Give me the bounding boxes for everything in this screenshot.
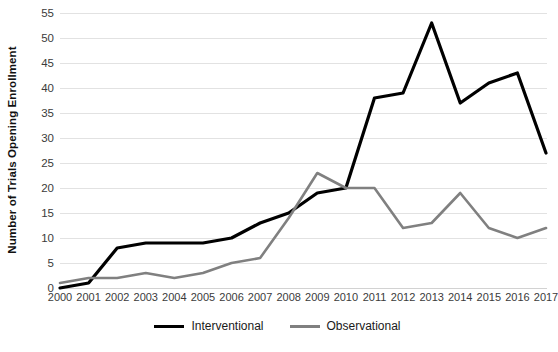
x-tick-label: 2011: [363, 291, 387, 303]
x-tick-label: 2000: [48, 291, 72, 303]
y-tick-label: 30: [41, 132, 54, 144]
y-axis-title-text: Number of Trials Opening Enrollment: [6, 46, 18, 253]
x-tick-label: 2012: [391, 291, 415, 303]
chart-legend: Interventional Observational: [0, 319, 555, 333]
x-tick-label: 2006: [219, 291, 243, 303]
x-tick-label: 2009: [305, 291, 329, 303]
x-tick-label: 2001: [76, 291, 100, 303]
y-tick-label: 35: [41, 107, 54, 119]
y-tick-label: 55: [41, 7, 54, 19]
legend-label-interventional: Interventional: [191, 319, 263, 333]
plot-area: [60, 13, 547, 288]
series-line-observational: [60, 173, 546, 283]
x-tick-label: 2013: [419, 291, 443, 303]
legend-swatch-interventional-icon: [154, 325, 184, 328]
x-tick-label: 2005: [191, 291, 215, 303]
x-tick-label: 2004: [162, 291, 186, 303]
x-tick-label: 2008: [276, 291, 300, 303]
legend-label-observational: Observational: [327, 319, 401, 333]
x-tick-label: 2010: [334, 291, 358, 303]
x-tick-label: 2016: [505, 291, 529, 303]
y-tick-label: 45: [41, 57, 54, 69]
x-tick-label: 2014: [448, 291, 472, 303]
plot-svg: [60, 13, 547, 288]
x-tick-label: 2015: [477, 291, 501, 303]
legend-item-observational: Observational: [290, 319, 401, 333]
y-axis-title: Number of Trials Opening Enrollment: [0, 0, 24, 300]
series-line-interventional: [60, 23, 546, 288]
x-tick-label: 2017: [534, 291, 558, 303]
y-tick-label: 15: [41, 207, 54, 219]
y-tick-label: 50: [41, 32, 54, 44]
gridline: [60, 288, 547, 289]
x-tick-label: 2002: [105, 291, 129, 303]
y-tick-label: 10: [41, 232, 54, 244]
legend-item-interventional: Interventional: [154, 319, 263, 333]
y-axis-tick-labels: 0510152025303540455055: [24, 13, 58, 288]
y-tick-label: 40: [41, 82, 54, 94]
x-tick-label: 2007: [248, 291, 272, 303]
y-tick-label: 20: [41, 182, 54, 194]
x-tick-label: 2003: [134, 291, 158, 303]
y-tick-label: 5: [48, 257, 54, 269]
y-tick-label: 25: [41, 157, 54, 169]
legend-swatch-observational-icon: [290, 325, 320, 328]
x-axis-tick-labels: 2000200120022003200420052006200720082009…: [60, 291, 547, 311]
